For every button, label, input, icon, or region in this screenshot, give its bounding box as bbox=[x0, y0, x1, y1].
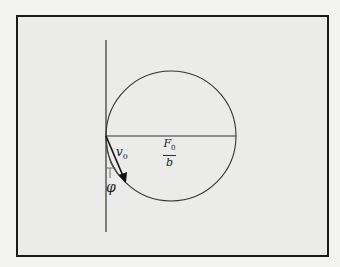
force-ratio-label: F0 b bbox=[163, 138, 176, 168]
arrowhead-icon bbox=[119, 172, 128, 183]
force-denominator: b bbox=[166, 157, 173, 168]
angle-marker bbox=[106, 168, 114, 178]
force-numerator: F0 bbox=[163, 138, 175, 154]
velocity-label: v0 bbox=[116, 146, 128, 161]
circle-diagram bbox=[0, 0, 340, 267]
angle-label: φ bbox=[106, 180, 116, 194]
